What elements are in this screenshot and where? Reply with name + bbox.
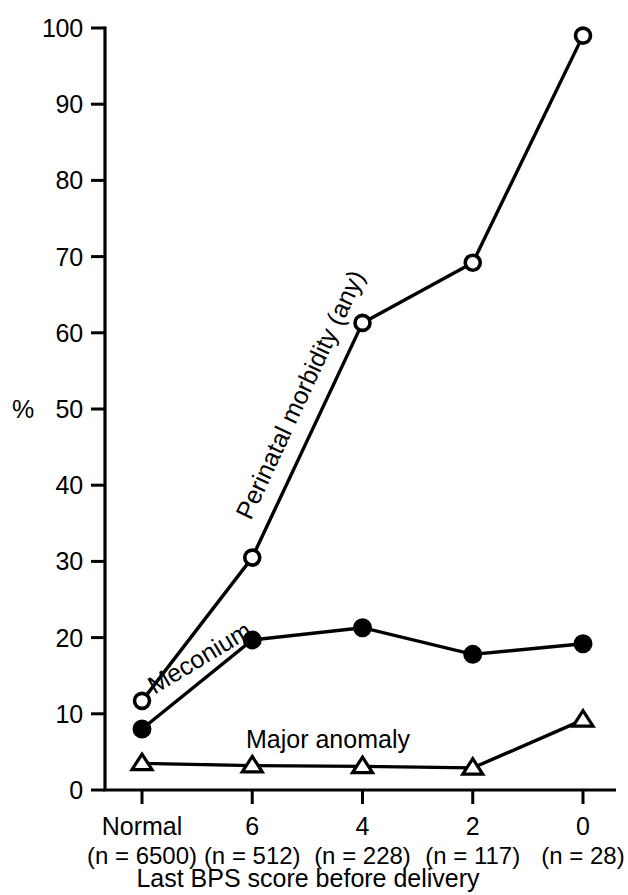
series-line-0 <box>142 36 583 701</box>
y-axis-tick-label: 90 <box>56 92 83 117</box>
x-axis-title: Last BPS score before delivery <box>0 866 616 891</box>
data-point-open-circle <box>576 28 591 43</box>
y-axis-tick-label: 10 <box>56 702 83 727</box>
y-axis-tick-label: 40 <box>56 473 83 498</box>
data-point-filled-circle <box>354 619 371 636</box>
data-point-filled-circle <box>464 646 481 663</box>
y-axis-tick-label: 100 <box>42 16 83 41</box>
data-point-filled-circle <box>134 721 151 738</box>
x-axis-category-label: 0(n = 28) <box>493 812 628 870</box>
data-point-open-triangle <box>573 711 593 726</box>
y-axis-tick-label: 80 <box>56 168 83 193</box>
data-point-open-circle <box>355 315 370 330</box>
x-axis-category-name: 0 <box>493 812 628 842</box>
data-point-open-circle <box>135 693 150 708</box>
y-axis-tick-label: 70 <box>56 245 83 270</box>
data-point-filled-circle <box>575 635 592 652</box>
y-axis-title: % <box>12 397 34 422</box>
y-axis-tick-label: 0 <box>69 778 83 803</box>
series-label-major-anomaly: Major anomaly <box>246 727 410 752</box>
data-point-open-circle <box>245 550 260 565</box>
y-axis-tick-label: 20 <box>56 626 83 651</box>
data-point-open-circle <box>465 255 480 270</box>
y-axis-tick-label: 60 <box>56 321 83 346</box>
y-axis-tick-label: 50 <box>56 397 83 422</box>
y-axis-tick-label: 30 <box>56 549 83 574</box>
